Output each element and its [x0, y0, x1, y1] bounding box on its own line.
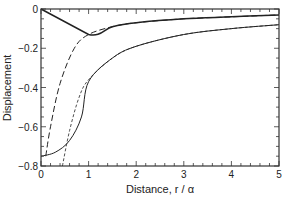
x-tick-label: 1	[86, 169, 92, 180]
y-tick-label: −0.6	[18, 122, 38, 133]
x-tick-label: 0	[38, 169, 44, 180]
plot-area	[41, 9, 279, 166]
plot-frame	[41, 9, 279, 166]
chart: 0123450−0.2−0.4−0.6−0.8 Distance, r / α …	[0, 0, 286, 199]
series-line	[46, 15, 279, 156]
x-axis-label: Distance, r / α	[126, 183, 195, 195]
x-tick-label: 3	[181, 169, 187, 180]
y-axis-label: Displacement	[1, 55, 13, 122]
series-line	[41, 25, 279, 156]
y-tick-label: −0.2	[18, 43, 38, 54]
y-tick-label: −0.4	[18, 83, 38, 94]
x-tick-label: 2	[133, 169, 139, 180]
series-line	[62, 25, 279, 166]
y-tick-label: −0.8	[18, 161, 38, 172]
x-tick-label: 5	[276, 169, 282, 180]
x-tick-label: 4	[229, 169, 235, 180]
y-tick-label: 0	[32, 4, 38, 15]
series-line	[41, 9, 279, 35]
